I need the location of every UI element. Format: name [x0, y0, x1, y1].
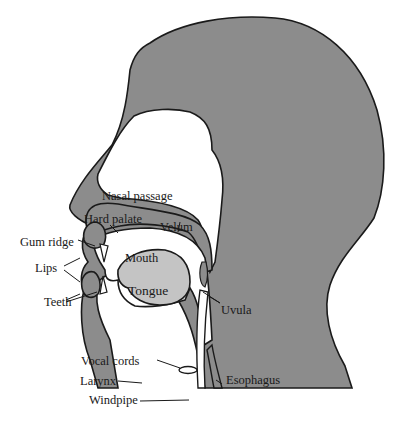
label-uvula: Uvula: [221, 304, 252, 317]
vocal-cords-shape: [179, 367, 197, 374]
diagram-graphic: [0, 0, 404, 428]
label-lips: Lips: [35, 262, 57, 275]
label-velum: Velum: [160, 221, 193, 234]
label-teeth: Teeth: [44, 296, 72, 309]
label-vocal-cords: Vocal cords: [81, 355, 139, 368]
vocal-tract-diagram: Nasal passage Hard palate Velum Gum ridg…: [0, 0, 404, 428]
label-tongue: Tongue: [128, 284, 168, 298]
label-gum-ridge: Gum ridge: [20, 236, 74, 249]
label-hard-palate: Hard palate: [84, 213, 142, 226]
uvula-shape: [200, 262, 208, 287]
label-windpipe: Windpipe: [89, 394, 138, 407]
label-nasal-passage: Nasal passage: [102, 190, 172, 203]
label-larynx: Larynx: [80, 375, 116, 388]
label-mouth: Mouth: [125, 252, 158, 265]
label-esophagus: Esophagus: [226, 374, 280, 387]
